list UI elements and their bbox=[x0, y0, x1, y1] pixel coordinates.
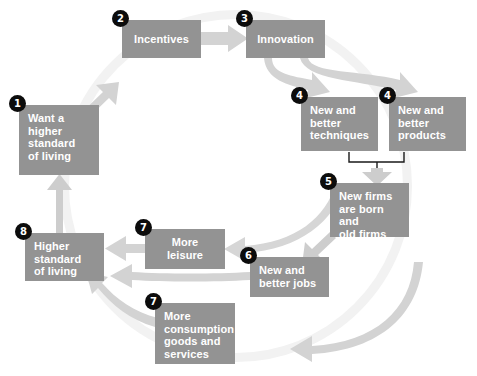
node-badge-5: 5 bbox=[320, 173, 337, 190]
node-badge-7-consumption: 7 bbox=[145, 293, 162, 310]
node-badge-1: 1 bbox=[9, 95, 26, 112]
node-new-better-techniques[interactable]: 4 New and better techniques bbox=[301, 97, 378, 151]
node-badge-4-techniques: 4 bbox=[291, 87, 308, 104]
node-badge-3: 3 bbox=[236, 10, 253, 27]
node-incentives[interactable]: 2 Incentives bbox=[122, 20, 201, 58]
node-label-incentives: Incentives bbox=[134, 33, 189, 46]
node-more-leisure[interactable]: 7 More leisure bbox=[145, 229, 225, 269]
node-badge-4-products: 4 bbox=[379, 87, 396, 104]
node-higher-standard-of-living[interactable]: 8 Higher standard of living bbox=[25, 233, 104, 281]
node-new-firms-born-old-die[interactable]: 5 New firms are born and old firms die bbox=[330, 183, 409, 237]
node-badge-6: 6 bbox=[240, 247, 257, 264]
node-more-consumption-goods-services[interactable]: 7 More consumption goods and services bbox=[155, 303, 235, 364]
node-badge-2: 2 bbox=[112, 10, 129, 27]
arrow-incentives-to-innovation bbox=[201, 25, 248, 52]
node-label-want-higher-standard: Want a higher standard of living bbox=[28, 112, 91, 162]
bracket-techniques-products bbox=[349, 152, 404, 170]
node-label-more-leisure: More leisure bbox=[167, 236, 203, 261]
node-badge-7-leisure: 7 bbox=[135, 219, 152, 236]
node-label-higher-standard-of-living: Higher standard of living bbox=[34, 240, 96, 278]
diagram-canvas: 1 Want a higher standard of living 2 Inc… bbox=[0, 0, 477, 376]
node-new-better-jobs[interactable]: 6 New and better jobs bbox=[250, 257, 329, 297]
arrow-leisure-to-standard bbox=[105, 236, 145, 261]
node-want-higher-standard[interactable]: 1 Want a higher standard of living bbox=[19, 105, 99, 175]
arrow-standard-to-want bbox=[47, 174, 72, 233]
node-label-new-better-techniques: New and better techniques bbox=[310, 104, 370, 142]
node-label-new-better-products: New and better products bbox=[398, 104, 458, 142]
node-badge-8: 8 bbox=[15, 223, 32, 240]
node-label-new-better-jobs: New and better jobs bbox=[259, 264, 321, 289]
node-label-innovation: Innovation bbox=[257, 33, 314, 46]
node-label-new-firms-born-old-die: New firms are born and old firms die bbox=[339, 190, 401, 253]
node-innovation[interactable]: 3 Innovation bbox=[246, 20, 325, 58]
node-label-more-consumption-goods-services: More consumption goods and services bbox=[164, 310, 227, 360]
node-new-better-products[interactable]: 4 New and better products bbox=[389, 97, 466, 151]
